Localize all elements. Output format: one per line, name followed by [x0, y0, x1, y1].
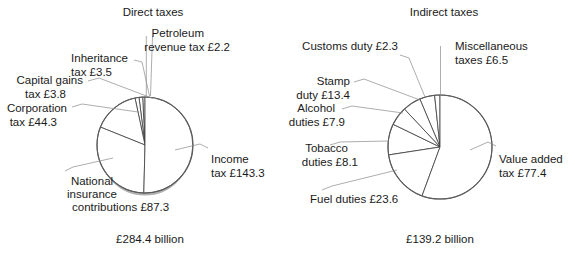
figure-canvas: Direct taxes: [0, 0, 575, 260]
callout-line-1: Value added: [499, 153, 563, 165]
callout-stamp-duty: Stamp duty £13.4: [296, 75, 350, 101]
tax-pie-charts-figure: Direct taxes: [0, 0, 575, 260]
callout-line-2: tax £44.3: [10, 116, 57, 128]
callout-line-2: duties £8.1: [302, 156, 358, 168]
callout-line-2: duty £13.4: [296, 89, 350, 101]
callout-line-1: Customs duty £2.3: [302, 40, 398, 52]
callout-line-2: duties £7.9: [289, 116, 345, 128]
callout-line-1: Alcohol: [297, 102, 335, 114]
callout-line-2: taxes £6.5: [455, 54, 508, 66]
callout-line-1: Stamp: [317, 75, 350, 87]
callout-line-1: Income: [211, 153, 249, 165]
callout-line-2: tax £3.8: [25, 88, 66, 100]
callout-line-1: Fuel duties £23.6: [310, 193, 398, 205]
callout-line-3: contributions £87.3: [72, 201, 169, 213]
chart-title-direct-taxes: Direct taxes: [123, 6, 184, 18]
callout-petroleum-revenue-tax: Petroleum revenue tax £2.2: [144, 27, 230, 53]
callout-value-added-tax: Value added tax £77.4: [499, 153, 563, 179]
chart-direct-taxes: Direct taxes: [7, 6, 265, 245]
chart-total-indirect-taxes: £139.2 billion: [406, 233, 474, 245]
callout-line-1: Capital gains: [17, 74, 84, 86]
callout-corporation-tax: Corporation tax £44.3: [7, 102, 67, 128]
callout-alcohol-duties: Alcohol duties £7.9: [289, 102, 345, 128]
callout-line-1: Tobacco: [305, 142, 348, 154]
callout-line-1: National: [71, 175, 113, 187]
callout-line-1: Miscellaneous: [455, 40, 528, 52]
callout-fuel-duties: Fuel duties £23.6: [310, 193, 398, 205]
callout-miscellaneous-taxes: Miscellaneous taxes £6.5: [455, 40, 528, 66]
callout-tobacco-duties: Tobacco duties £8.1: [302, 142, 358, 168]
callout-line-1: Inheritance: [71, 52, 128, 64]
callout-income-tax: Income tax £143.3: [211, 153, 265, 179]
callout-line-1: Petroleum: [152, 27, 204, 39]
chart-total-direct-taxes: £284.4 billion: [116, 233, 184, 245]
chart-title-indirect-taxes: Indirect taxes: [410, 6, 479, 18]
callout-customs-duty: Customs duty £2.3: [302, 40, 398, 52]
callout-line-2: tax £143.3: [211, 167, 265, 179]
callout-line-2: tax £77.4: [499, 167, 547, 179]
pie-slice-income-tax: [144, 97, 193, 193]
chart-indirect-taxes: Indirect taxes: [289, 6, 563, 245]
callout-capital-gains-tax: Capital gains tax £3.8: [17, 74, 84, 100]
callout-line-2: insurance: [67, 188, 117, 200]
callout-line-2: revenue tax £2.2: [144, 41, 230, 53]
callout-line-1: Corporation: [7, 102, 67, 114]
